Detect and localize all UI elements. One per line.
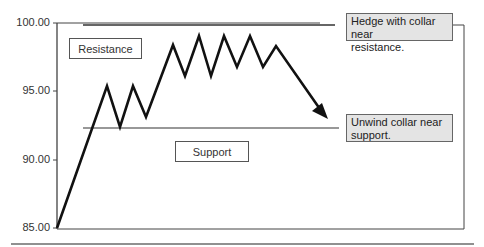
hedge-callout: Hedge with collar near resistance. xyxy=(346,13,453,41)
y-tick-label-90: 90.00 xyxy=(2,153,50,165)
y-tick-label-85: 85.00 xyxy=(2,221,50,233)
hedge-callout-line2: resistance. xyxy=(351,41,448,54)
price-line xyxy=(57,36,322,228)
unwind-callout-line1: Unwind collar near xyxy=(351,116,448,129)
support-label: Support xyxy=(175,141,249,162)
y-tick-label-100: 100.00 xyxy=(2,16,50,28)
unwind-callout-line2: support. xyxy=(351,129,448,142)
unwind-callout: Unwind collar near support. xyxy=(346,114,453,142)
resistance-label: Resistance xyxy=(69,38,142,59)
y-tick-label-95: 95.00 xyxy=(2,84,50,96)
arrow-head-icon xyxy=(312,103,328,119)
hedge-callout-line1: Hedge with collar near xyxy=(351,15,448,41)
